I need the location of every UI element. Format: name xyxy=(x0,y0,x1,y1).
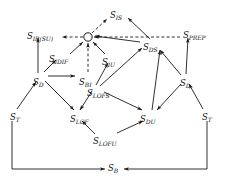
node-base-s-b: S xyxy=(108,163,114,173)
node-sub-s-d-right: D xyxy=(186,82,191,89)
node-sub-s-ds: DS xyxy=(149,46,158,53)
node-base-s-prep: S xyxy=(183,30,189,40)
edge-t-right-to-d-right xyxy=(189,84,203,109)
edge-iu-to-center xyxy=(93,42,105,54)
node-base-s-lofs: S xyxy=(87,88,93,98)
node-base-s-du: S xyxy=(140,114,146,124)
node-sub-s-lofu: LOFU xyxy=(99,140,117,147)
edge-d-left-to-lof xyxy=(45,81,74,110)
node-base-s-t-left: S xyxy=(10,112,16,122)
node-label-s-prep[interactable]: SPREP xyxy=(183,31,205,40)
node-sub-s-du: DU xyxy=(146,118,156,125)
node-base-s-lof: S xyxy=(70,114,76,124)
edge-du-to-ds xyxy=(152,50,160,110)
node-sub-s-is: IS xyxy=(116,14,122,21)
node-base-s-idif: S xyxy=(49,54,55,64)
edge-center-to-is xyxy=(92,19,107,33)
node-label-s-t-left[interactable]: ST xyxy=(10,113,20,122)
node-base-s-d-right: S xyxy=(180,78,186,88)
diagram-canvas: SIS SIR(SU) SPREP SDS SIDIF SIU SD SBI S… xyxy=(0,0,235,187)
edge-d-right-to-prep xyxy=(186,38,188,74)
node-sub-s-bi: BI xyxy=(85,81,92,88)
edge-ds-to-is xyxy=(128,18,150,39)
node-sub-s-d-left: D xyxy=(39,81,44,88)
node-base-s-bi: S xyxy=(79,77,85,87)
edge-d-right-to-du xyxy=(157,84,181,110)
center-circle-node[interactable] xyxy=(84,33,92,41)
node-label-s-d-right[interactable]: SD xyxy=(180,79,191,88)
node-label-s-t-right[interactable]: ST xyxy=(202,113,212,122)
node-label-s-ir-su[interactable]: SIR(SU) xyxy=(27,32,53,41)
node-sub-s-lofs: LOFS xyxy=(93,92,110,99)
node-label-s-lofu[interactable]: SLOFU xyxy=(93,137,117,146)
node-label-s-du[interactable]: SDU xyxy=(140,115,156,124)
node-base-s-d-left: S xyxy=(33,77,39,87)
node-label-s-lofs[interactable]: SLOFS xyxy=(87,89,110,98)
node-base-s-ds: S xyxy=(143,42,149,52)
node-label-s-bi[interactable]: SBI xyxy=(79,78,91,87)
node-label-s-iu[interactable]: SIU xyxy=(102,58,115,67)
node-base-s-t-right: S xyxy=(202,112,208,122)
node-sub-s-idif: IDIF xyxy=(55,58,68,65)
node-label-s-d-left[interactable]: SD xyxy=(33,78,44,87)
node-base-s-ir-su: S xyxy=(27,31,33,41)
node-base-s-is: S xyxy=(110,10,116,20)
node-base-s-lofu: S xyxy=(93,136,99,146)
node-label-s-lof[interactable]: SLOF xyxy=(70,115,89,124)
diagram-edges-layer xyxy=(0,0,235,187)
edge-idif-to-center xyxy=(70,42,83,54)
node-sub-s-b: B xyxy=(114,167,118,174)
node-label-s-is[interactable]: SIS xyxy=(110,11,122,20)
node-sub-s-t-left: T xyxy=(16,116,20,123)
node-label-s-ds[interactable]: SDS xyxy=(143,43,158,52)
node-base-s-iu: S xyxy=(102,57,108,67)
edge-t-right-to-b xyxy=(124,121,207,169)
node-label-s-idif[interactable]: SIDIF xyxy=(49,55,68,64)
node-sub-s-ir-su: IR(SU) xyxy=(33,35,53,42)
node-sub-s-prep: PREP xyxy=(189,34,206,41)
edge-d-right-to-ds xyxy=(160,50,181,75)
node-label-s-b[interactable]: SB xyxy=(108,164,118,173)
node-sub-s-t-right: T xyxy=(208,116,212,123)
edge-t-left-to-b xyxy=(12,121,105,169)
node-sub-s-iu: IU xyxy=(108,61,115,68)
node-sub-s-lof: LOF xyxy=(76,118,89,125)
